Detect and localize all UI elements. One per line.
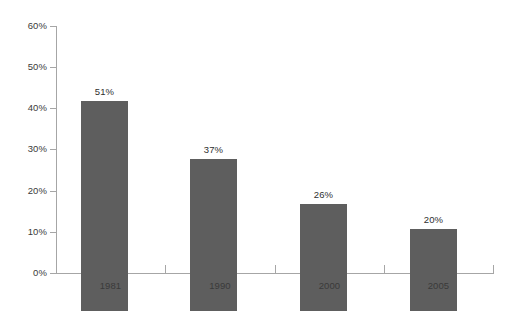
bar[interactable] xyxy=(410,229,457,311)
bar[interactable] xyxy=(300,204,347,311)
y-axis-tick-label: 60% xyxy=(3,21,47,31)
bar-group: 37% xyxy=(190,64,237,311)
x-axis-tick-mark xyxy=(165,265,166,273)
bar-value-label: 51% xyxy=(95,87,114,97)
bar-group: 20% xyxy=(410,64,457,311)
bar-chart: 60% 50% 40% 30% 20% 10% 0% 51% 37% 26% 2… xyxy=(0,0,506,311)
x-axis-tick-mark xyxy=(384,265,385,273)
x-axis-category-label: 2000 xyxy=(275,281,384,291)
x-axis-tick-mark xyxy=(493,265,494,273)
y-axis-tick-label: 20% xyxy=(3,186,47,196)
y-axis-tick-label: 40% xyxy=(3,103,47,113)
bar-value-label: 26% xyxy=(314,190,333,200)
y-axis-tick-label: 0% xyxy=(3,268,47,278)
x-axis-tick-mark xyxy=(56,265,57,273)
y-axis-tick-label: 50% xyxy=(3,62,47,72)
y-axis-tick-label: 10% xyxy=(3,227,47,237)
y-axis-tick-label: 30% xyxy=(3,144,47,154)
bar-group: 51% xyxy=(81,64,128,311)
bar-group: 26% xyxy=(300,64,347,311)
bar-value-label: 37% xyxy=(204,145,223,155)
x-axis-category-label: 1990 xyxy=(165,281,275,291)
x-axis-tick-mark xyxy=(275,265,276,273)
bar-value-label: 20% xyxy=(424,215,443,225)
x-axis-category-label: 2005 xyxy=(384,281,493,291)
y-axis-line xyxy=(56,26,57,274)
x-axis-category-label: 1981 xyxy=(56,281,165,291)
